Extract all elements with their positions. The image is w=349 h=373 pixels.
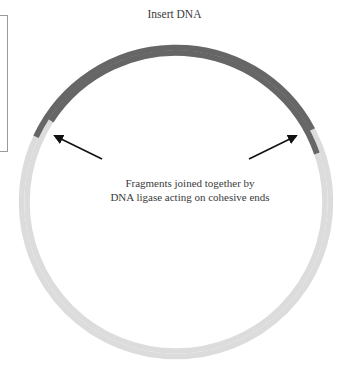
- caption-line-2: DNA ligase acting on cohesive ends: [100, 190, 280, 204]
- right-junction-arrow-icon: [249, 136, 296, 159]
- ligation-caption: Fragments joined together by DNA ligase …: [100, 176, 280, 204]
- insert-dna-arc-inner: [51, 53, 317, 154]
- left-junction-arrow-icon: [55, 136, 102, 159]
- caption-line-1: Fragments joined together by: [100, 176, 280, 190]
